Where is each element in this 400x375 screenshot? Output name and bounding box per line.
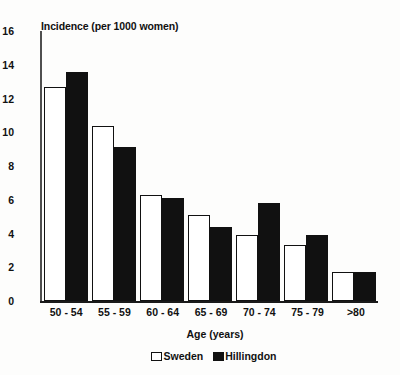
bar-hillingdon-6569 — [210, 227, 232, 301]
legend-label: Sweden — [163, 350, 203, 362]
x-axis-line — [40, 301, 378, 303]
y-tick-label: 12 — [0, 93, 14, 105]
y-tick-label: 6 — [0, 194, 14, 206]
x-axis-title: Age (years) — [0, 328, 400, 340]
legend-entry-sweden: Sweden — [151, 350, 203, 362]
bar-sweden-80 — [332, 272, 354, 301]
bar-group — [138, 31, 186, 301]
plot-area: 0246810121416 — [40, 31, 378, 301]
x-tick-label: 55 - 59 — [90, 306, 138, 318]
bar-sweden-5054 — [44, 87, 66, 301]
bar-group — [90, 31, 138, 301]
bar-sweden-6569 — [188, 215, 210, 301]
x-tick-label: 60 - 64 — [139, 306, 187, 318]
hollow-square-icon — [151, 352, 162, 361]
bar-sweden-6064 — [140, 195, 162, 301]
x-tick-label: 65 - 69 — [187, 306, 235, 318]
y-tick-label: 2 — [0, 261, 14, 273]
bar-hillingdon-5054 — [66, 72, 88, 302]
bar-group — [330, 31, 378, 301]
bar-group — [186, 31, 234, 301]
legend-entry-hillingdon: Hillingdon — [213, 350, 276, 362]
x-tick-label: 50 - 54 — [42, 306, 90, 318]
legend-label: Hillingdon — [225, 350, 276, 362]
x-tick-labels: 50 - 5455 - 5960 - 6465 - 6970 - 7475 - … — [42, 306, 380, 318]
bar-hillingdon-7074 — [258, 203, 280, 301]
bar-group — [42, 31, 90, 301]
x-tick-label: >80 — [332, 306, 380, 318]
bar-group — [282, 31, 330, 301]
bar-sweden-5559 — [92, 126, 114, 302]
chart-figure: Incidence (per 1000 women) 0246810121416… — [0, 0, 400, 375]
x-tick-label: 70 - 74 — [235, 306, 283, 318]
y-tick-label: 8 — [0, 160, 14, 172]
bar-sweden-7074 — [236, 235, 258, 301]
y-tick-label: 10 — [0, 126, 14, 138]
y-tick-label: 0 — [0, 295, 14, 307]
bar-hillingdon-6064 — [162, 198, 184, 301]
chart-legend: SwedenHillingdon — [0, 350, 400, 362]
bar-groups — [42, 31, 378, 301]
bar-hillingdon-7579 — [306, 235, 328, 301]
filled-square-icon — [213, 352, 224, 361]
y-tick-label: 4 — [0, 228, 14, 240]
bar-sweden-7579 — [284, 245, 306, 301]
bar-hillingdon-80 — [354, 272, 376, 301]
y-tick-label: 16 — [0, 25, 14, 37]
x-tick-label: 75 - 79 — [283, 306, 331, 318]
bar-hillingdon-5559 — [114, 147, 136, 301]
bar-group — [234, 31, 282, 301]
y-tick-label: 14 — [0, 59, 14, 71]
